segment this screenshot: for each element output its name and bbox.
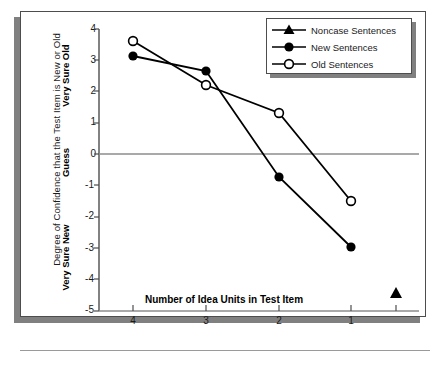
- legend-label-old-sentences: Old Sentences: [311, 59, 373, 70]
- legend-item-noncase-sentences[interactable]: Noncase Sentences: [267, 21, 411, 39]
- plot-frame: Degree of Confidence that the Test Item …: [20, 11, 426, 317]
- legend-label-new-sentences: New Sentences: [311, 42, 378, 53]
- bottom-divider-rule: [20, 350, 430, 351]
- legend-marker-open-circle-icon: [267, 55, 311, 73]
- legend-marker-filled-triangle-icon: [267, 21, 311, 39]
- legend-label-noncase-sentences: Noncase Sentences: [311, 25, 396, 36]
- legend-item-new-sentences[interactable]: New Sentences: [267, 38, 411, 56]
- figure-root: Degree of Confidence that the Test Item …: [0, 0, 438, 369]
- y-tick-marks: [94, 29, 99, 311]
- legend-item-old-sentences[interactable]: Old Sentences: [267, 55, 411, 73]
- legend-marker-filled-circle-icon: [267, 38, 311, 56]
- x-tick-marks: [133, 305, 396, 311]
- series-markers-new-sentences: [128, 51, 355, 251]
- series-line-new-sentences: [133, 56, 351, 247]
- legend: Noncase Sentences New Sentences: [266, 18, 412, 74]
- x-axis-title: Number of Idea Units in Test Item: [21, 294, 427, 305]
